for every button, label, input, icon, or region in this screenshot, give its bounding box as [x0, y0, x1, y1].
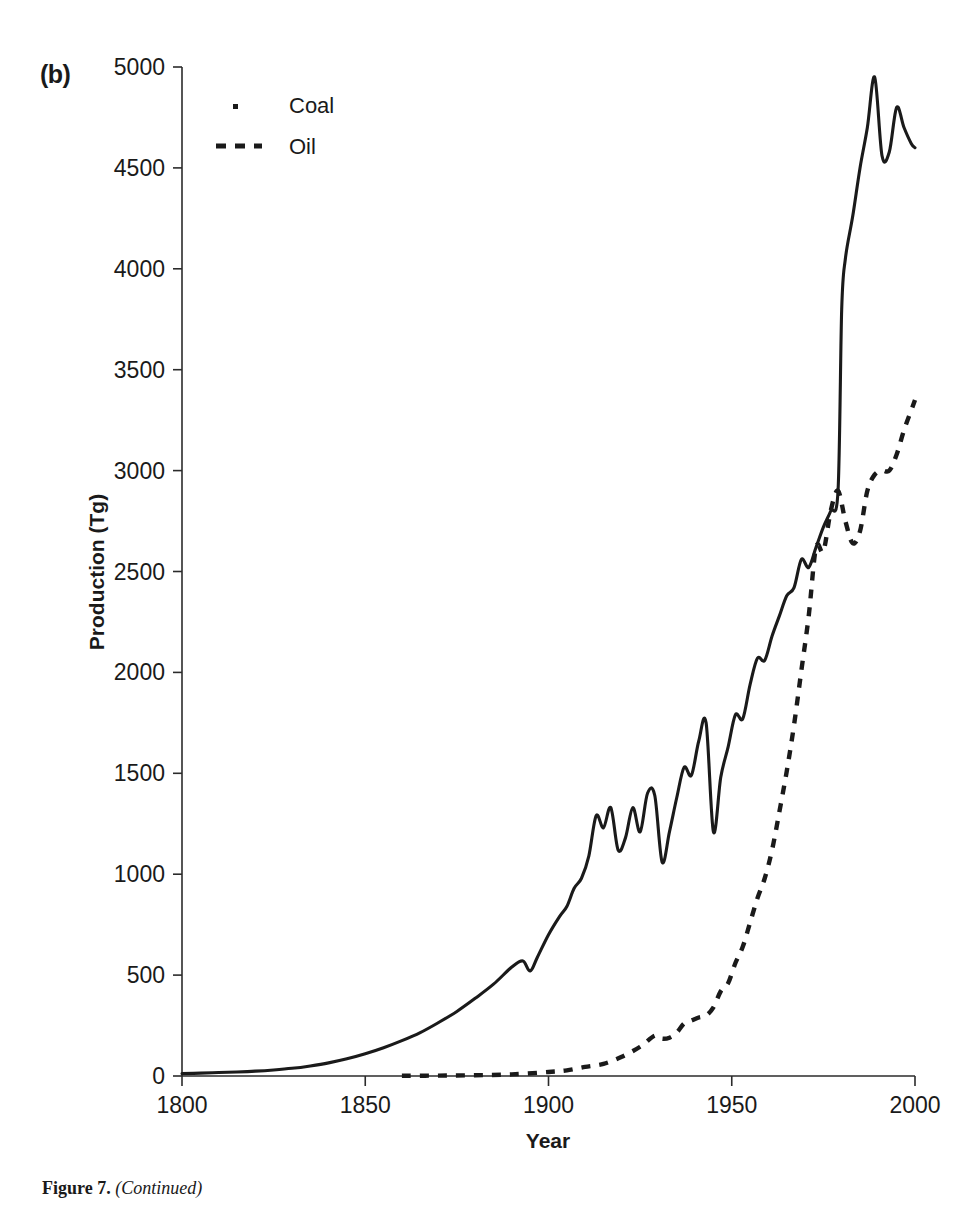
x-tick-label: 1850 — [340, 1092, 391, 1118]
y-tick-label: 3500 — [114, 357, 165, 383]
y-axis-ticks — [173, 67, 182, 1076]
x-axis-title: Year — [526, 1129, 570, 1152]
y-tick-label: 2000 — [114, 659, 165, 685]
y-tick-label: 4000 — [114, 256, 165, 282]
y-tick-label: 3000 — [114, 458, 165, 484]
y-tick-label: 1500 — [114, 760, 165, 786]
production-line-chart: 0500100015002000250030003500400045005000… — [0, 0, 978, 1160]
chart-axes — [173, 67, 915, 1086]
x-tick-label: 1800 — [156, 1092, 207, 1118]
x-tick-label: 1900 — [523, 1092, 574, 1118]
figure-caption: Figure 7. (Continued) — [42, 1178, 202, 1199]
y-axis-title: Production (Tg) — [85, 494, 108, 650]
x-axis-tick-labels: 18001850190019502000 — [156, 1092, 940, 1118]
series-line-coal — [182, 77, 915, 1074]
legend-label-coal: Coal — [289, 93, 334, 118]
x-tick-label: 1950 — [706, 1092, 757, 1118]
caption-figure-number: Figure 7. — [42, 1178, 111, 1198]
chart-legend: Coal Oil — [216, 93, 334, 159]
y-tick-label: 2500 — [114, 559, 165, 585]
y-axis-tick-labels: 0500100015002000250030003500400045005000 — [114, 54, 165, 1089]
x-axis-ticks — [182, 1076, 915, 1086]
legend-swatch-coal-icon — [233, 104, 238, 109]
y-tick-label: 4500 — [114, 155, 165, 181]
y-tick-label: 500 — [127, 962, 165, 988]
y-tick-label: 0 — [152, 1063, 165, 1089]
chart-series-group — [182, 77, 915, 1076]
figure-panel-b: (b) 050010001500200025003000350040004500… — [0, 0, 978, 1205]
legend-label-oil: Oil — [289, 134, 316, 159]
y-tick-label: 1000 — [114, 861, 165, 887]
caption-continued: (Continued) — [115, 1178, 202, 1198]
x-tick-label: 2000 — [889, 1092, 940, 1118]
y-tick-label: 5000 — [114, 54, 165, 80]
